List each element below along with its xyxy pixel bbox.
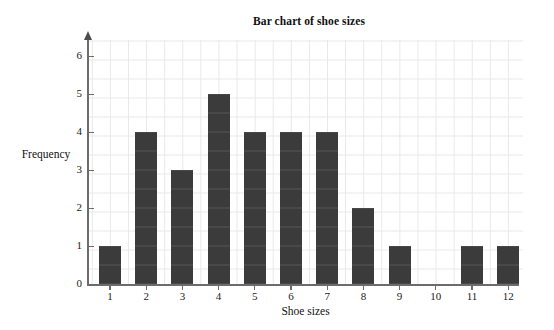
x-axis-title: Shoe sizes bbox=[88, 305, 523, 317]
y-axis-tick-label: 2 bbox=[66, 201, 82, 213]
bar bbox=[461, 246, 483, 284]
x-axis-tick-label: 6 bbox=[278, 290, 304, 302]
x-axis-tick-label: 7 bbox=[314, 290, 340, 302]
y-axis-arrow-icon bbox=[84, 31, 92, 40]
y-axis-tick-label: 6 bbox=[66, 49, 82, 61]
chart-title: Bar chart of shoe sizes bbox=[0, 15, 554, 27]
y-axis-line bbox=[87, 38, 89, 286]
bar bbox=[171, 170, 193, 284]
bar bbox=[497, 246, 519, 284]
x-axis-tick-label: 5 bbox=[242, 290, 268, 302]
x-axis-tick-label: 8 bbox=[350, 290, 376, 302]
y-axis-tick bbox=[89, 56, 94, 57]
bar bbox=[99, 246, 121, 284]
x-axis-tick-label: 4 bbox=[206, 290, 232, 302]
chart-title-text: Bar chart of shoe sizes bbox=[253, 15, 365, 27]
y-axis-tick-label: 4 bbox=[66, 125, 82, 137]
y-axis-tick bbox=[89, 284, 94, 285]
bar bbox=[280, 132, 302, 284]
x-axis-tick-label: 1 bbox=[97, 290, 123, 302]
y-axis-tick bbox=[89, 170, 94, 171]
y-axis-tick-label: 5 bbox=[66, 87, 82, 99]
y-axis-tick-label: 1 bbox=[66, 239, 82, 251]
y-axis-tick bbox=[89, 94, 94, 95]
x-axis-line bbox=[87, 284, 519, 286]
y-axis-tick-label: 3 bbox=[66, 163, 82, 175]
x-axis-tick-label: 10 bbox=[423, 290, 449, 302]
bar bbox=[135, 132, 157, 284]
y-axis-title: Frequency bbox=[10, 148, 82, 160]
bar-chart: Bar chart of shoe sizes 0123456 12345678… bbox=[0, 0, 554, 330]
x-axis-tick-label: 2 bbox=[133, 290, 159, 302]
x-axis-tick-label: 9 bbox=[387, 290, 413, 302]
y-axis-tick bbox=[89, 208, 94, 209]
y-axis-tick bbox=[89, 246, 94, 247]
x-axis-tick-label: 11 bbox=[459, 290, 485, 302]
bar bbox=[208, 94, 230, 284]
x-axis-tick-label: 12 bbox=[495, 290, 521, 302]
bar bbox=[316, 132, 338, 284]
bar bbox=[389, 246, 411, 284]
x-axis-tick-label: 3 bbox=[169, 290, 195, 302]
bar bbox=[244, 132, 266, 284]
y-axis-tick-label: 0 bbox=[66, 277, 82, 289]
bar bbox=[352, 208, 374, 284]
y-axis-tick bbox=[89, 132, 94, 133]
plot-area bbox=[88, 40, 523, 285]
